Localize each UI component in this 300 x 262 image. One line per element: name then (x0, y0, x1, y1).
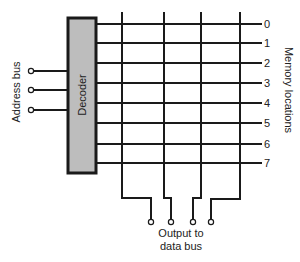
memory-locations-label: Memory locations (283, 47, 295, 134)
memory-row-number: 4 (264, 97, 270, 109)
output-terminal (148, 219, 153, 224)
memory-decoder-diagram: 01234567 Decoder Address bus Memory loca… (0, 0, 300, 262)
output-terminal (168, 219, 173, 224)
memory-row-number: 2 (264, 57, 270, 69)
output-label-line1: Output to (158, 227, 203, 239)
memory-row-number: 6 (264, 138, 270, 150)
address-bus-inputs (28, 68, 68, 112)
address-terminal (28, 68, 33, 73)
output-terminal (208, 219, 213, 224)
decoder-label: Decoder (76, 74, 88, 116)
address-terminal (28, 107, 33, 112)
address-terminal (28, 87, 33, 92)
memory-row-number: 1 (264, 37, 270, 49)
output-label-line2: data bus (160, 240, 203, 252)
address-bus-label: Address bus (10, 61, 22, 123)
memory-row-number: 5 (264, 117, 270, 129)
memory-row-number: 7 (264, 157, 270, 169)
output-terminal (190, 219, 195, 224)
memory-row-number: 3 (264, 77, 270, 89)
memory-row-number: 0 (264, 18, 270, 30)
